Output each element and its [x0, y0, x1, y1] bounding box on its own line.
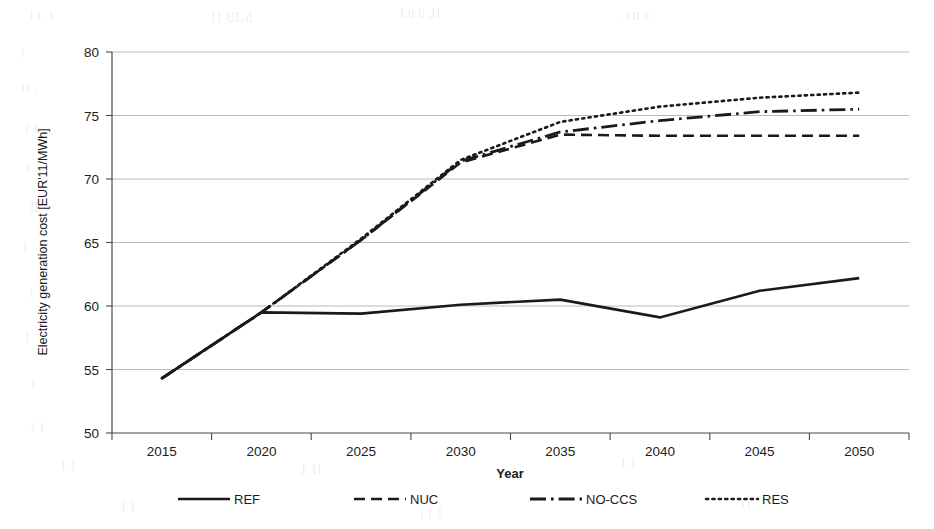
x-tick-label: 2040 [645, 444, 675, 459]
y-axis-title: Electricity generation cost [EUR'11/MWh] [36, 128, 50, 355]
y-tick-label: 60 [84, 299, 99, 314]
y-tick-label: 70 [84, 172, 99, 187]
y-tick-label: 55 [84, 363, 99, 378]
x-tick-label: 2045 [745, 444, 775, 459]
x-tick-label: 2030 [446, 444, 476, 459]
chart-legend: REF NUC NO-CCS RES [178, 492, 789, 507]
line-chart-figure: 80 75 70 65 60 55 50 2015 2020 2025 2030… [0, 0, 934, 529]
x-tick-label: 2035 [545, 444, 575, 459]
x-axis-title: Year [496, 466, 523, 481]
legend-label: NO-CCS [586, 492, 638, 507]
y-tick-label: 75 [84, 109, 99, 124]
legend-label: NUC [410, 492, 438, 507]
y-axis-tick-labels: 80 75 70 65 60 55 50 [84, 45, 99, 441]
y-tick-label: 65 [84, 236, 99, 251]
x-axis-tick-labels: 2015 2020 2025 2030 2035 2040 2045 2050 [147, 444, 874, 459]
y-tick-label: 80 [84, 45, 99, 60]
x-tick-label: 2020 [246, 444, 276, 459]
legend-label: REF [234, 492, 260, 507]
y-axis-tickmarks [106, 52, 112, 433]
legend-item-res[interactable]: RES [706, 492, 789, 507]
legend-item-nuc[interactable]: NUC [354, 492, 438, 507]
x-tick-label: 2025 [346, 444, 376, 459]
y-tick-label: 50 [84, 426, 99, 441]
x-tick-label: 2050 [844, 444, 874, 459]
x-tick-label: 2015 [147, 444, 177, 459]
legend-label: RES [762, 492, 789, 507]
legend-item-no-ccs[interactable]: NO-CCS [530, 492, 638, 507]
x-axis-tickmarks [112, 433, 909, 440]
legend-item-ref[interactable]: REF [178, 492, 260, 507]
